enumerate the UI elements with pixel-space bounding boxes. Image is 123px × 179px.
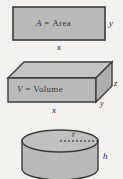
cylinder-figure: r h [0,124,123,179]
box-top-face [8,62,112,78]
cylinder-label-r: r [72,131,75,139]
volume-box-figure: V = Volume z y x [0,56,123,118]
box-label-z: z [114,80,117,88]
area-rectangle-figure: A = Area y x [0,0,123,56]
volume-word: Volume [33,84,63,94]
area-rectangle-svg [0,0,123,56]
box-label-y: y [100,100,104,108]
rectangle-label-y: y [109,19,113,28]
box-label-x: x [52,106,56,115]
cylinder-label-h: h [103,152,108,161]
rectangle-label-x: x [57,43,61,52]
area-equation-label: A = Area [36,19,71,28]
figure-panel: A = Area y x V = Volume z y x [0,0,123,179]
area-word: Area [52,18,71,28]
area-operator: = [42,18,52,28]
volume-operator: = [23,84,33,94]
volume-equation-label: V = Volume [17,85,63,94]
